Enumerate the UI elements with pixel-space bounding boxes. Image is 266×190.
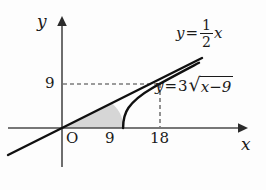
- equation-curve-coefficient: 3: [178, 77, 188, 95]
- fraction-numerator: 1: [200, 18, 213, 32]
- y-axis-arrowhead: [57, 16, 67, 26]
- x-axis-arrowhead: [238, 123, 248, 133]
- equation-line-variable: x: [214, 24, 222, 42]
- radicand: x−9: [200, 76, 234, 96]
- equation-line-equals: =: [185, 24, 198, 42]
- equation-curve-equals: =: [164, 77, 177, 95]
- x-axis-label: x: [241, 136, 251, 153]
- x-tick-label-18: 18: [150, 131, 169, 146]
- y-tick-label-9: 9: [45, 76, 55, 91]
- radical-group: √ x−9: [189, 76, 234, 96]
- radical-sign-icon: √: [189, 76, 201, 96]
- x-tick-label-9: 9: [105, 131, 115, 146]
- equation-line-fraction: 1 2: [200, 18, 213, 49]
- origin-label: O: [66, 131, 78, 146]
- equation-line-label: y = 1 2 x: [176, 18, 222, 49]
- equation-curve-label: y = 3 √ x−9: [155, 76, 233, 96]
- math-figure: y x O 9 9 18 y = 1 2 x y = 3 √ x−9: [0, 0, 266, 190]
- equation-line-lhs: y: [176, 24, 184, 42]
- fraction-denominator: 2: [200, 35, 213, 49]
- equation-curve-lhs: y: [155, 77, 163, 95]
- y-axis-label: y: [37, 13, 47, 30]
